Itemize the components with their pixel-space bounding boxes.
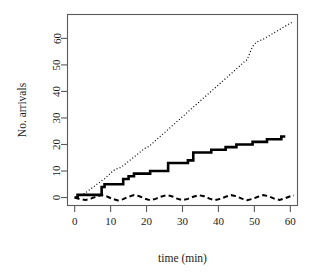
x-tick-label-3: 30 <box>177 215 189 227</box>
x-tick-label-0: 0 <box>72 215 78 227</box>
chart-figure: 01020304050600102030405060time (min)No. … <box>0 0 313 273</box>
series-observed-arrivals-step <box>75 137 286 198</box>
y-tick-label-1: 10 <box>51 165 63 177</box>
x-tick-label-2: 20 <box>141 215 153 227</box>
series-cumulative-arrivals-dotted <box>75 22 292 197</box>
x-tick-label-6: 60 <box>285 215 297 227</box>
y-tick-label-6: 60 <box>51 32 63 44</box>
y-tick-label-0: 0 <box>51 194 63 200</box>
x-tick-label-4: 40 <box>213 215 225 227</box>
y-tick-label-2: 20 <box>51 138 63 150</box>
y-tick-label-3: 30 <box>51 112 63 124</box>
x-axis-title: time (min) <box>158 252 207 265</box>
x-tick-label-5: 50 <box>249 215 261 227</box>
y-tick-label-5: 50 <box>51 59 63 71</box>
y-axis-title: No. arrivals <box>16 82 28 137</box>
series-residual-dashed <box>75 195 294 200</box>
plot-canvas: 01020304050600102030405060time (min)No. … <box>0 0 313 273</box>
y-tick-label-4: 40 <box>51 85 63 97</box>
x-tick-label-1: 10 <box>105 215 117 227</box>
plot-box-border <box>68 15 298 206</box>
